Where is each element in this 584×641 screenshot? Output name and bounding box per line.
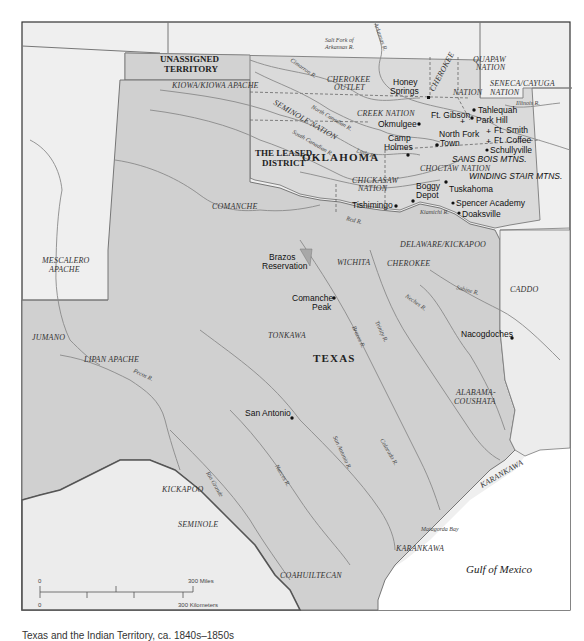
label-river-salt-fork-2: Arkansas R. bbox=[324, 44, 354, 50]
map-caption: Texas and the Indian Territory, ca. 1840… bbox=[22, 630, 234, 641]
town-san-antonio: San Antonio bbox=[245, 408, 294, 420]
town-spencer-academy: Spencer Academy bbox=[451, 198, 525, 208]
label-alabama-2: COUSHATA bbox=[454, 397, 496, 406]
svg-text:San Antonio: San Antonio bbox=[245, 408, 291, 418]
svg-text:Tishimingo: Tishimingo bbox=[352, 200, 393, 210]
label-jumano: JUMANO bbox=[32, 333, 65, 342]
label-cherokee-nation-suffix: NATION bbox=[452, 88, 483, 97]
svg-text:Ft. Coffee: Ft. Coffee bbox=[494, 135, 531, 145]
svg-text:300 Miles: 300 Miles bbox=[188, 578, 214, 584]
svg-text:Peak: Peak bbox=[312, 302, 332, 312]
town-park-hill: Park Hill bbox=[470, 115, 507, 125]
town-okmulgee: Okmulgee bbox=[378, 119, 421, 129]
svg-text:Okmulgee: Okmulgee bbox=[378, 119, 417, 129]
svg-text:Ft. Smith: Ft. Smith bbox=[494, 125, 528, 135]
svg-text:300 Kilometers: 300 Kilometers bbox=[178, 602, 218, 608]
label-unassigned-1: UNASSIGNED bbox=[160, 54, 220, 64]
town-nacogdoches: Nacogdoches bbox=[461, 329, 514, 340]
label-river-kiamichi: Kiamichi R. bbox=[419, 209, 449, 215]
label-seneca-2: NATION bbox=[489, 88, 520, 97]
label-mescalero-1: MESCALERO bbox=[41, 256, 90, 265]
label-texas: TEXAS bbox=[313, 352, 356, 364]
town-tahlequah: Tahlequah bbox=[472, 105, 517, 115]
svg-text:Depot: Depot bbox=[416, 190, 439, 200]
label-matagorda-bay: Matagorda Bay bbox=[420, 526, 459, 532]
label-cherokee-outlet-2: OUTLET bbox=[334, 83, 365, 92]
svg-text:Doaksville: Doaksville bbox=[462, 209, 501, 219]
label-river-illinois: Illinois R. bbox=[515, 100, 540, 106]
label-creek-nation: CREEK NATION bbox=[357, 109, 415, 118]
label-quapaw-2: NATION bbox=[475, 63, 506, 72]
svg-text:Reservation: Reservation bbox=[262, 261, 308, 271]
label-chickasaw-2: NATION bbox=[357, 184, 388, 193]
svg-text:Spencer Academy: Spencer Academy bbox=[456, 198, 526, 208]
label-coahuiltecan: COAHUILTECAN bbox=[280, 571, 342, 580]
label-wichita: WICHITA bbox=[337, 258, 370, 267]
svg-text:Tuskahoma: Tuskahoma bbox=[449, 184, 493, 194]
label-sans-bois-mtns: SANS BOIS MTNS. bbox=[452, 154, 527, 164]
svg-text:Tahlequah: Tahlequah bbox=[478, 105, 518, 115]
svg-text:Town: Town bbox=[440, 138, 460, 148]
label-caddo: CADDO bbox=[510, 285, 539, 294]
label-alabama-1: ALABAMA- bbox=[455, 388, 496, 397]
svg-text:Springs: Springs bbox=[390, 86, 419, 96]
svg-text:Nacogdoches: Nacogdoches bbox=[461, 329, 513, 339]
label-karankawa-2: KARANKAWA bbox=[395, 544, 444, 553]
label-kiowa: KIOWA/KIOWA APACHE bbox=[171, 81, 259, 90]
label-unassigned-2: TERRITORY bbox=[164, 64, 219, 74]
svg-text:Park Hill: Park Hill bbox=[476, 115, 508, 125]
label-lipan-apache: LIPAN APACHE bbox=[83, 355, 139, 364]
svg-text:Holmes: Holmes bbox=[384, 142, 413, 152]
label-gulf-of-mexico: Gulf of Mexico bbox=[466, 563, 532, 575]
town-boggy-depot: Boggy Depot bbox=[411, 181, 441, 203]
label-winding-stair-mtns: WINDING STAIR MTNS. bbox=[469, 171, 562, 181]
svg-text:+: + bbox=[486, 126, 491, 136]
label-delaware-kickapoo: DELAWARE/KICKAPOO bbox=[399, 240, 486, 249]
label-leased-2: DISTRICT bbox=[262, 158, 306, 168]
label-leased-1: THE LEASED bbox=[255, 148, 313, 158]
label-seminole-tx: SEMINOLE bbox=[178, 520, 218, 529]
label-seneca-1: SENECA/CAYUGA bbox=[490, 79, 555, 88]
label-kickapoo: KICKAPOO bbox=[161, 485, 204, 494]
label-tonkawa: TONKAWA bbox=[268, 331, 306, 340]
svg-text:Ft. Gibson: Ft. Gibson bbox=[431, 110, 470, 120]
label-river-salt-fork-1: Salt Fork of bbox=[325, 37, 355, 43]
label-cherokee-tx: CHEROKEE bbox=[387, 259, 430, 268]
town-tishimingo: Tishimingo bbox=[352, 200, 398, 210]
label-mescalero-2: APACHE bbox=[48, 265, 80, 274]
town-doaksville: Doaksville bbox=[457, 209, 501, 219]
label-comanche: COMANCHE bbox=[212, 202, 258, 211]
